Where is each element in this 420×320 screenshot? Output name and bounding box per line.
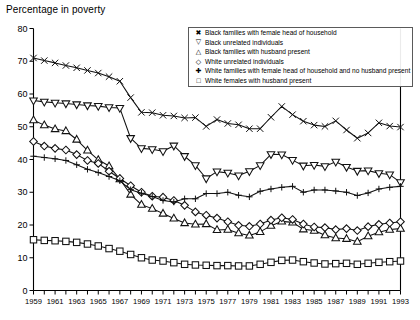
data-point-marker bbox=[279, 184, 285, 190]
data-point-marker bbox=[192, 262, 198, 268]
data-point-marker bbox=[213, 226, 221, 233]
data-point-marker bbox=[235, 263, 241, 269]
data-point-marker bbox=[354, 168, 362, 175]
y-tick-label: 20 bbox=[17, 220, 27, 230]
data-point-marker bbox=[116, 105, 124, 112]
y-tick-label: 10 bbox=[17, 253, 27, 263]
data-point-marker bbox=[311, 187, 317, 193]
data-point-marker bbox=[333, 188, 339, 194]
data-point-marker bbox=[160, 258, 166, 264]
data-point-marker bbox=[84, 103, 92, 110]
data-point-marker bbox=[386, 172, 394, 179]
data-point-marker bbox=[246, 263, 252, 269]
data-point-marker bbox=[95, 169, 101, 175]
data-point-marker bbox=[181, 261, 187, 267]
x-tick-label: 1979 bbox=[241, 297, 258, 306]
data-point-marker bbox=[224, 225, 232, 232]
x-tick-label: 1959 bbox=[25, 297, 42, 306]
data-point-marker bbox=[375, 221, 383, 229]
legend-symbol-icon: △ bbox=[192, 48, 205, 56]
data-point-marker bbox=[289, 183, 295, 189]
legend-label: Black families with female head of house… bbox=[205, 28, 337, 38]
data-point-marker bbox=[84, 166, 90, 172]
y-tick-label: 30 bbox=[17, 187, 27, 197]
data-point-marker bbox=[343, 260, 349, 266]
data-point-marker bbox=[289, 158, 297, 165]
data-point-marker bbox=[41, 154, 47, 160]
legend-label: White unrelated individuals bbox=[205, 57, 284, 67]
y-tick-label: 0 bbox=[22, 286, 27, 296]
x-tick-label: 1983 bbox=[284, 297, 301, 306]
data-point-marker bbox=[300, 258, 306, 264]
data-point-marker bbox=[386, 219, 394, 227]
data-point-marker bbox=[106, 173, 112, 179]
data-point-marker bbox=[376, 186, 382, 192]
data-point-marker bbox=[267, 216, 275, 224]
data-point-marker bbox=[95, 70, 101, 76]
data-point-marker bbox=[343, 225, 351, 233]
data-point-marker bbox=[332, 226, 340, 234]
data-point-marker bbox=[300, 118, 306, 124]
legend-symbol-icon: ✚ bbox=[192, 67, 205, 75]
data-point-marker bbox=[365, 130, 371, 136]
x-tick-label: 1969 bbox=[133, 297, 150, 306]
data-point-marker bbox=[343, 235, 351, 242]
y-tick-label: 60 bbox=[17, 89, 27, 99]
data-point-marker bbox=[214, 262, 220, 268]
data-point-marker bbox=[268, 186, 274, 192]
legend-item: ▽Black unrelated individuals bbox=[192, 38, 412, 48]
data-point-marker bbox=[235, 173, 243, 180]
y-tick-label: 40 bbox=[17, 155, 27, 165]
legend-item: □White females with husband present bbox=[192, 76, 412, 86]
legend-item: ◇White unrelated individuals bbox=[192, 57, 412, 67]
data-point-marker bbox=[30, 237, 36, 243]
data-point-marker bbox=[257, 261, 263, 267]
data-point-marker bbox=[300, 163, 308, 170]
data-point-marker bbox=[41, 237, 47, 243]
data-point-marker bbox=[289, 257, 295, 263]
x-tick-label: 1973 bbox=[176, 297, 193, 306]
data-point-marker bbox=[51, 100, 59, 107]
data-point-marker bbox=[321, 224, 329, 232]
legend-item: △Black families with husband present bbox=[192, 47, 412, 57]
data-point-marker bbox=[289, 111, 295, 117]
data-point-marker bbox=[246, 194, 252, 200]
data-point-marker bbox=[354, 261, 360, 267]
data-point-marker bbox=[387, 258, 393, 264]
legend-label: White females with husband present bbox=[205, 76, 311, 86]
data-point-marker bbox=[235, 192, 241, 198]
legend-item: ✖Black families with female head of hous… bbox=[192, 28, 412, 38]
data-point-marker bbox=[214, 190, 220, 196]
data-point-marker bbox=[63, 157, 69, 163]
data-point-marker bbox=[365, 260, 371, 266]
data-point-marker bbox=[192, 196, 198, 202]
legend-label: White families with female head of house… bbox=[205, 66, 410, 76]
data-point-marker bbox=[279, 257, 285, 263]
data-point-marker bbox=[214, 116, 220, 122]
data-point-marker bbox=[311, 260, 317, 266]
data-point-marker bbox=[354, 135, 360, 141]
legend-symbol-icon: ◇ bbox=[192, 58, 205, 66]
data-point-marker bbox=[202, 211, 210, 219]
data-point-marker bbox=[278, 152, 286, 159]
data-point-marker bbox=[203, 190, 209, 196]
data-point-marker bbox=[149, 257, 155, 263]
series-2 bbox=[30, 116, 405, 244]
data-point-marker bbox=[310, 223, 318, 231]
data-point-marker bbox=[171, 259, 177, 265]
data-point-marker bbox=[84, 67, 90, 73]
data-point-marker bbox=[203, 262, 209, 268]
y-tick-label: 80 bbox=[17, 24, 27, 34]
data-point-marker bbox=[300, 220, 308, 228]
x-tick-label: 1981 bbox=[263, 297, 280, 306]
data-point-marker bbox=[343, 189, 349, 195]
data-point-marker bbox=[127, 94, 133, 100]
data-point-marker bbox=[84, 241, 90, 247]
data-point-marker bbox=[279, 103, 285, 109]
y-tick-label: 50 bbox=[17, 122, 27, 132]
chart-root: Percentage in poverty 01020304050607080 … bbox=[0, 0, 420, 320]
data-point-marker bbox=[73, 239, 79, 245]
data-point-marker bbox=[73, 135, 81, 142]
data-point-marker bbox=[278, 214, 286, 222]
legend: ✖Black families with female head of hous… bbox=[188, 27, 413, 87]
